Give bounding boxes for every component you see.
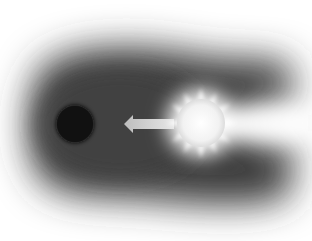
diagram-canvas xyxy=(0,0,312,241)
planet-body xyxy=(57,106,93,142)
sun-icon xyxy=(177,99,225,147)
diagram-svg xyxy=(0,0,312,241)
